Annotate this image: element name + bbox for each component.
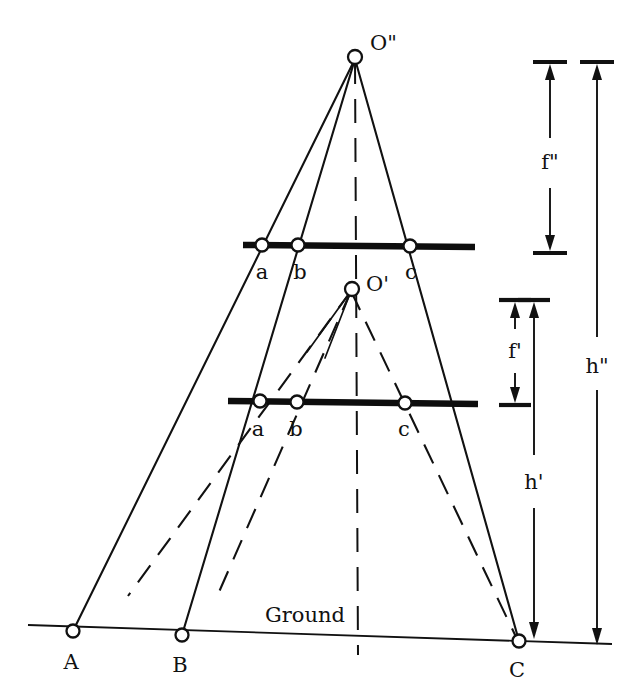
arrowhead-f-lower-bottom [510, 387, 520, 403]
optical-axis-line [355, 60, 358, 655]
diagram-canvas: f" h" f' h' [0, 0, 643, 684]
label-ground-a: A [62, 650, 79, 674]
label-lower-image-b: b [289, 417, 302, 441]
node-upper-image-c [404, 240, 417, 253]
label-ground-b: B [172, 653, 187, 677]
rays-from-lower-center [128, 291, 517, 639]
label-upper-image-a: a [256, 260, 269, 284]
dimension-focal-lower: f' [499, 300, 531, 405]
node-ground-c [513, 635, 526, 648]
dimension-label-height-lower: h' [524, 470, 543, 494]
label-ground-c: C [509, 658, 525, 682]
arrowhead-f-lower-top [510, 302, 520, 318]
ray-stub-left-inner [325, 291, 351, 358]
node-upper-perspective-center [348, 50, 362, 64]
node-lower-image-c [399, 397, 412, 410]
dimension-height-upper: h" [580, 62, 614, 645]
arrowhead-h-lower-top [529, 302, 539, 318]
rays-from-upper-center [73, 59, 519, 641]
dimension-label-height-upper: h" [585, 354, 608, 378]
ray-Olower-to-B [219, 291, 351, 592]
dimension-label-focal-upper: f" [541, 150, 558, 174]
label-ground: Ground [265, 603, 345, 627]
label-upper-image-c: c [405, 260, 417, 284]
node-ground-a [67, 625, 80, 638]
label-upper-image-b: b [293, 260, 306, 284]
arrowhead-f-upper-top [545, 64, 555, 80]
label-upper-perspective-center: O" [370, 31, 397, 55]
node-ground-b [176, 629, 189, 642]
dimension-label-focal-lower: f' [508, 339, 522, 363]
dimension-focal-upper: f" [533, 62, 567, 253]
projection-geometry-figure: f" h" f' h' [0, 0, 643, 684]
label-lower-perspective-center: O' [366, 272, 389, 296]
arrowhead-f-upper-bottom [545, 235, 555, 251]
ray-stub-left-outer [307, 291, 351, 352]
node-upper-image-b [292, 239, 305, 252]
lower-center-ray-stubs [307, 291, 351, 358]
node-lower-image-a [254, 395, 267, 408]
ray-Oupper-to-C [355, 59, 519, 641]
label-lower-image-a: a [252, 417, 265, 441]
label-lower-image-c: c [398, 417, 410, 441]
arrowhead-h-upper-top [592, 64, 602, 80]
node-upper-image-a [256, 239, 269, 252]
arrowhead-h-lower-bottom [529, 622, 539, 639]
dimension-height-lower: h' [518, 300, 550, 639]
upper-image-plane [243, 245, 475, 247]
node-lower-perspective-center [345, 282, 359, 296]
node-lower-image-b [291, 396, 304, 409]
